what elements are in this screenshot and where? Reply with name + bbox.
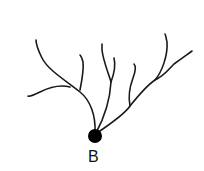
right-main-branch [97, 34, 167, 133]
middle-main-branch [96, 44, 111, 133]
dendrite-diagram [0, 0, 204, 171]
left-side-branch [28, 86, 70, 96]
left-upper-branch [80, 55, 83, 90]
right-side-branch [155, 51, 192, 80]
soma [88, 129, 102, 143]
diagram-label: B [88, 148, 99, 166]
middle-side-branch [111, 58, 115, 82]
